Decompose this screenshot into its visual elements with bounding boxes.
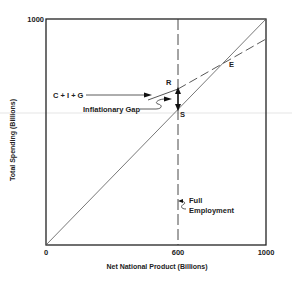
cig-line-solid <box>148 89 178 100</box>
point-r-label: R <box>166 78 172 87</box>
cig-label: C + I + G <box>53 91 84 100</box>
point-e-label: E <box>229 60 234 69</box>
full-employment-annotation-arrow <box>178 199 186 209</box>
x-tick-1000: 1000 <box>258 248 275 257</box>
cig-annotation-arrow <box>86 93 152 98</box>
x-tick-600: 600 <box>172 248 185 257</box>
x-tick-0: 0 <box>44 248 48 257</box>
x-axis-title: Net National Product (Billions) <box>106 263 207 271</box>
y-tick-1000: 1000 <box>27 15 44 24</box>
y-axis-title: Total Spending (Billions) <box>9 99 17 181</box>
inflationary-gap-label: Inflationary Gap <box>83 105 141 114</box>
full-label: Full <box>189 196 202 205</box>
gap-annotation-arrow <box>140 97 172 110</box>
chart-canvas: 0 600 1000 1000 Net National Product (Bi… <box>0 0 292 282</box>
point-s-label: S <box>180 110 185 119</box>
employment-label: Employment <box>189 206 235 215</box>
